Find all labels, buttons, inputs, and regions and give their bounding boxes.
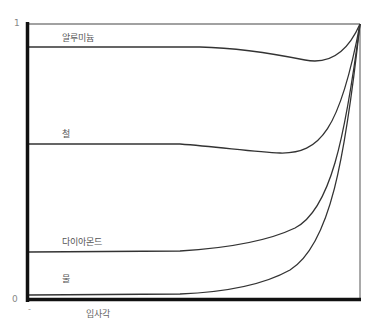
curve-steel bbox=[29, 24, 360, 153]
label-steel: 철 bbox=[62, 129, 70, 139]
y-tick-bottom: 0 bbox=[12, 294, 18, 304]
y-tick-top: 1 bbox=[14, 18, 20, 28]
reflectance-chart: 1 0 - 입사각 알루미늄 철 다이아몬드 물 bbox=[0, 0, 373, 333]
x-tick-mark: - bbox=[28, 305, 31, 314]
curve-water bbox=[29, 24, 360, 295]
x-axis-title: 입사각 bbox=[86, 308, 110, 319]
curve-diamond bbox=[29, 24, 360, 252]
label-water: 물 bbox=[62, 274, 70, 284]
chart-svg: 1 0 - 입사각 알루미늄 철 다이아몬드 물 bbox=[0, 0, 373, 333]
label-diamond: 다이아몬드 bbox=[62, 237, 102, 247]
label-aluminum: 알루미늄 bbox=[62, 33, 94, 43]
